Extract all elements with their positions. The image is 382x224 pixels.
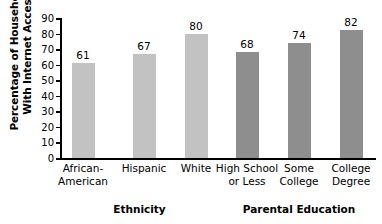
- x-category-label-line2: American: [48, 175, 118, 188]
- y-tick-mark: [56, 158, 60, 160]
- y-axis-spine: [60, 18, 62, 159]
- y-tick-label: 10: [34, 137, 54, 148]
- bar-value-label: 67: [137, 40, 150, 52]
- bar-value-label: 68: [240, 38, 253, 50]
- bar: 74: [288, 43, 311, 158]
- y-tick-label: 30: [34, 106, 54, 117]
- y-tick-label: 50: [34, 75, 54, 86]
- y-tick-label: 70: [34, 44, 54, 55]
- bar-value-label: 80: [189, 20, 202, 32]
- y-tick-mark: [56, 80, 60, 82]
- y-tick-label: 40: [34, 90, 54, 101]
- y-tick-label: 60: [34, 59, 54, 70]
- y-tick-label: 90: [34, 13, 54, 24]
- bar: 80: [185, 34, 208, 158]
- x-category-label-line1: College: [316, 162, 382, 175]
- bar-value-label: 74: [292, 29, 305, 41]
- bar: 61: [72, 63, 95, 158]
- y-tick-mark: [56, 18, 60, 20]
- y-axis-title-line1: Percentage of Households: [8, 0, 21, 131]
- plot-area: 0102030405060708090 616780687482: [60, 18, 376, 158]
- bar-chart-figure: Percentage of Households With Internet A…: [0, 0, 382, 224]
- bar-value-label: 61: [76, 49, 89, 61]
- x-axis-spine: [60, 158, 376, 160]
- x-category-label: African-American: [48, 162, 118, 187]
- y-axis-title-line2: With Internet Access: [21, 0, 34, 115]
- y-axis-title: Percentage of Households With Internet A…: [6, 0, 36, 129]
- x-category-label-line1: African-: [48, 162, 118, 175]
- y-tick-label: 80: [34, 28, 54, 39]
- y-tick-mark: [56, 49, 60, 51]
- bar-value-label: 82: [344, 16, 357, 28]
- group-label-2: Parental Education: [199, 203, 382, 215]
- x-category-label: CollegeDegree: [316, 162, 382, 187]
- y-tick-mark: [56, 111, 60, 113]
- y-tick-mark: [56, 142, 60, 144]
- bar: 68: [236, 52, 259, 158]
- bar: 82: [340, 30, 363, 158]
- y-tick-mark: [56, 127, 60, 129]
- x-category-label-line2: Degree: [316, 175, 382, 188]
- y-tick-label: 20: [34, 121, 54, 132]
- y-tick-mark: [56, 96, 60, 98]
- y-tick-mark: [56, 34, 60, 36]
- y-tick-mark: [56, 65, 60, 67]
- bar: 67: [133, 54, 156, 158]
